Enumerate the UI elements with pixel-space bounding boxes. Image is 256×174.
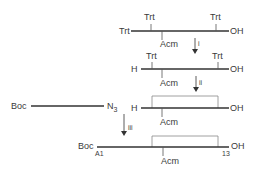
step2-label: ii <box>199 79 202 87</box>
row3-bottom-group: Acm <box>160 117 178 127</box>
row4-bottom-group: Acm <box>161 156 179 166</box>
row2-c-term: OH <box>230 64 244 74</box>
step1-label: i <box>198 40 200 48</box>
row3-n-term: H <box>131 103 138 113</box>
row1-c-term: OH <box>230 26 244 36</box>
row1-n-term: Trt <box>119 26 130 36</box>
row1-top-group-2: Trt <box>210 12 221 22</box>
fragment-n-term: Boc <box>11 101 27 111</box>
row2-top-group-2: Trt <box>212 51 223 61</box>
fragment-c-term: N3 <box>107 101 117 111</box>
row2-n-term: H <box>131 64 138 74</box>
azide-n: N <box>107 101 114 111</box>
row2-top-group-1: Trt <box>146 51 157 61</box>
azide-subscript: 3 <box>114 106 118 113</box>
row1-top-group-1: Trt <box>144 12 155 22</box>
row4-n-term: Boc <box>78 141 94 151</box>
row4-c-term: OH <box>231 141 245 151</box>
row4-start-residue: A1 <box>95 150 104 158</box>
row3-c-term: OH <box>230 103 244 113</box>
row1-bottom-group: Acm <box>160 39 178 49</box>
row2-bottom-group: Acm <box>160 78 178 88</box>
synthesis-scheme: Trt Trt Trt OH Acm i H Trt Trt OH Acm ii… <box>0 0 256 174</box>
row4-end-residue: 13 <box>222 150 230 158</box>
step3-label: iii <box>128 124 133 132</box>
